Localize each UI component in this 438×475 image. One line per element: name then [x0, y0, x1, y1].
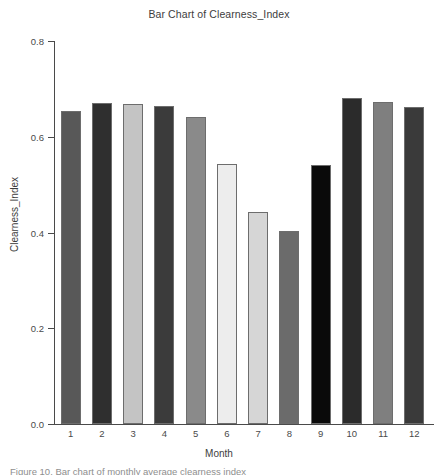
y-tick-mark [48, 41, 54, 42]
y-tick-mark [48, 233, 54, 234]
bar [373, 102, 393, 424]
bar [154, 106, 174, 424]
bar [311, 165, 331, 424]
x-tick-label: 6 [224, 428, 229, 439]
bar [404, 107, 424, 424]
x-tick-label: 12 [409, 428, 420, 439]
chart-title: Bar Chart of Clearness_Index [0, 8, 438, 20]
y-tick-label: 0.2 [31, 323, 44, 334]
x-tick-label: 9 [318, 428, 323, 439]
y-tick-label: 0.4 [31, 227, 44, 238]
y-tick-mark [48, 137, 54, 138]
y-tick-label: 0.8 [31, 36, 44, 47]
x-tick-label: 5 [193, 428, 198, 439]
x-tick-label: 2 [99, 428, 104, 439]
x-tick-label: 3 [130, 428, 135, 439]
bar-chart-figure: Bar Chart of Clearness_Index 0.00.20.40.… [0, 0, 438, 475]
x-tick-label: 1 [68, 428, 73, 439]
y-axis-title: Clearness_Index [9, 115, 20, 315]
y-tick-mark [48, 424, 54, 425]
x-axis-title: Month [0, 448, 438, 459]
x-tick-label: 8 [287, 428, 292, 439]
bar [61, 111, 81, 424]
y-tick-label: 0.6 [31, 131, 44, 142]
x-axis-line [48, 424, 434, 425]
bar [279, 231, 299, 424]
bar [123, 104, 143, 424]
x-tick-label: 7 [255, 428, 260, 439]
bar [217, 164, 237, 424]
bar [186, 117, 206, 424]
plot-area [55, 41, 430, 424]
y-tick-label: 0.0 [31, 419, 44, 430]
bar [342, 98, 362, 424]
y-tick-mark [48, 328, 54, 329]
figure-caption: Figure 10. Bar chart of monthly average … [10, 466, 430, 475]
bar [92, 103, 112, 424]
x-tick-label: 11 [378, 428, 388, 439]
x-tick-label: 4 [162, 428, 167, 439]
x-tick-label: 10 [347, 428, 358, 439]
bar [248, 212, 268, 424]
